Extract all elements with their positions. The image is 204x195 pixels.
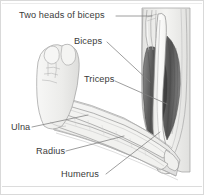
arm-anatomy-figure: Two heads of biceps Biceps Triceps Ulna … (0, 0, 204, 195)
label-ulna: Ulna (11, 123, 30, 132)
fist-knuckle-thumb (61, 44, 76, 65)
label-radius: Radius (36, 147, 65, 156)
label-triceps: Triceps (84, 75, 114, 84)
arm-illustration (0, 0, 204, 195)
label-biceps: Biceps (74, 37, 102, 46)
label-humerus: Humerus (61, 170, 99, 179)
label-two-heads-of-biceps: Two heads of biceps (19, 11, 105, 20)
